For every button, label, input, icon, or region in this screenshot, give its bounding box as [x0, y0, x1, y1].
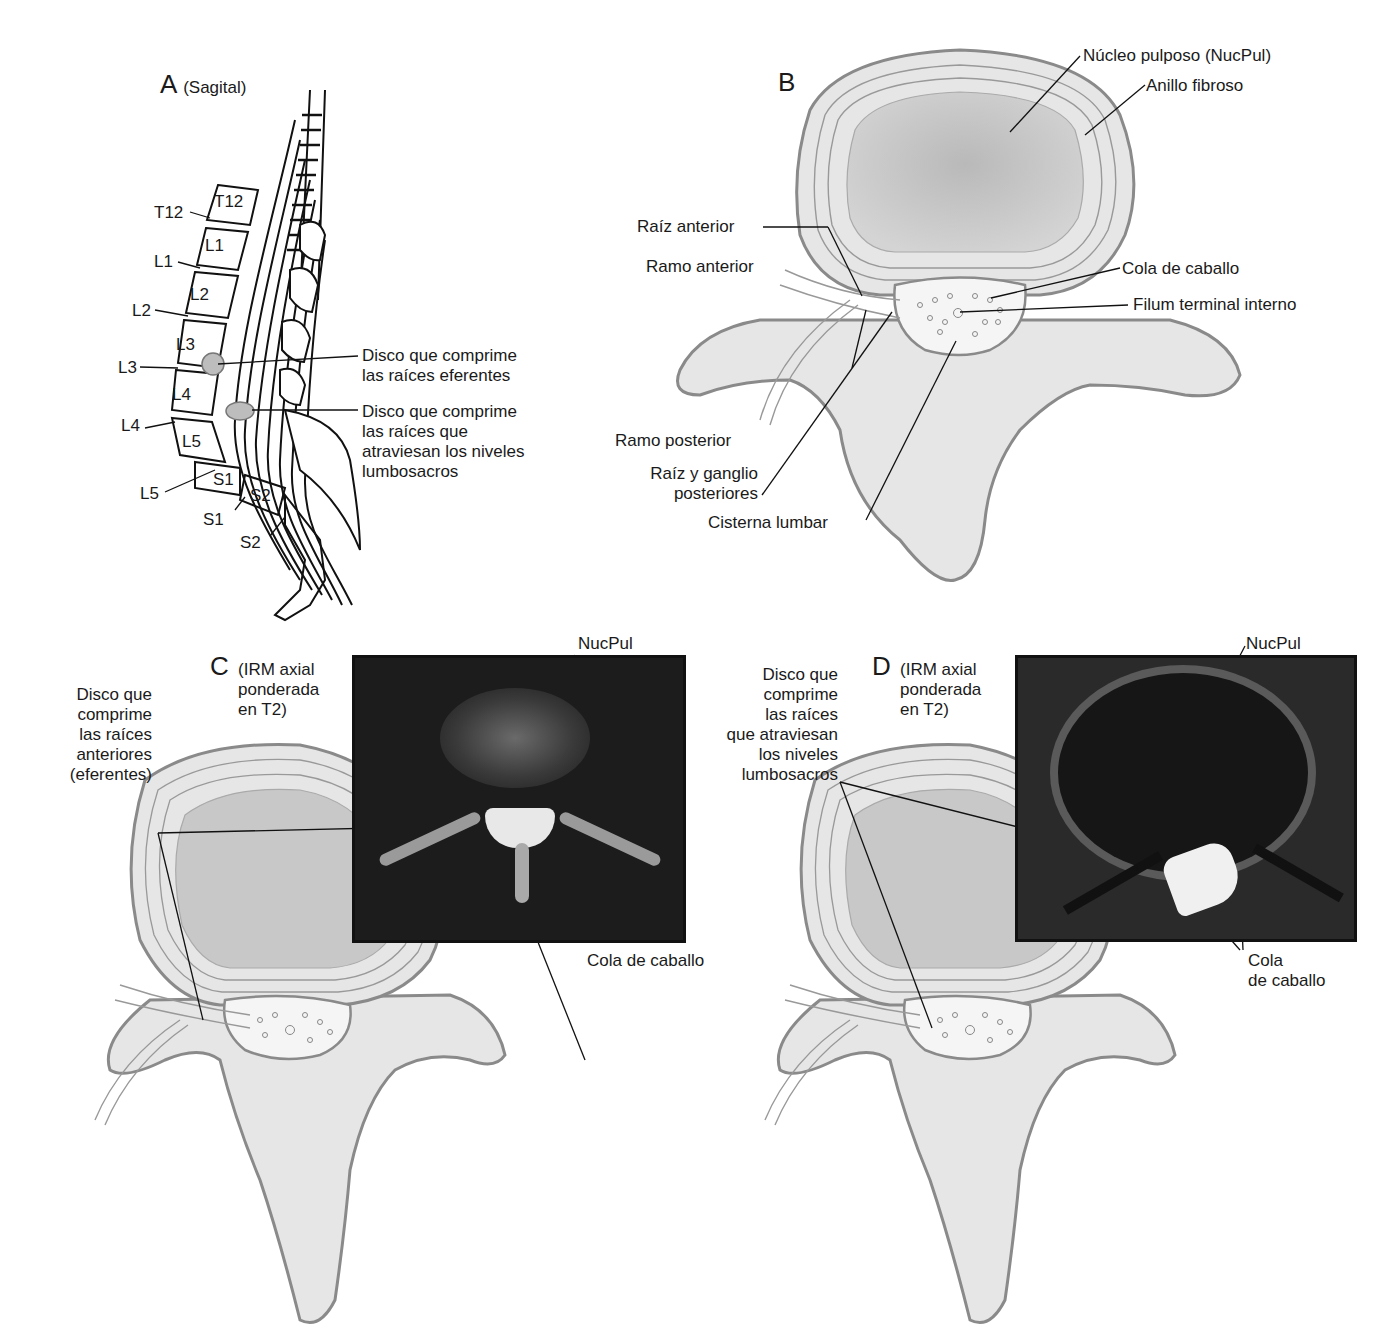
callout-anterior-ramus: Ramo anterior	[646, 257, 754, 277]
panel-d-letter: D	[872, 652, 891, 680]
vertebra-label-l5: L5	[182, 432, 201, 452]
callout-annulus-fibrosus: Anillo fibroso	[1146, 76, 1243, 96]
mri-spinous-c	[515, 843, 529, 903]
panel-a-sagittal-spine	[172, 90, 360, 620]
mri-lamina-left-d	[1063, 851, 1163, 915]
callout-posterior-ramus: Ramo posterior	[615, 431, 731, 451]
panel-c-letter: C	[210, 652, 229, 680]
callout-anterior-root: Raíz anterior	[637, 217, 734, 237]
panel-b-letter: B	[778, 68, 795, 96]
vertebra-label-t12: T12	[214, 192, 243, 212]
vertebra-label-s2: S2	[250, 486, 271, 506]
panel-a-title: A (Sagital)	[160, 70, 246, 102]
vertebra-label-l2: L2	[190, 285, 209, 305]
disc-label-l1: L1	[154, 252, 173, 272]
callout-cauda-equina-b: Cola de caballo	[1122, 259, 1239, 279]
callout-cauda-equina-d: Cola de caballo	[1248, 951, 1326, 991]
disc-label-l5: L5	[140, 484, 159, 504]
callout-filum-terminale: Filum terminal interno	[1133, 295, 1296, 315]
callout-lumbar-cistern: Cisterna lumbar	[708, 513, 828, 533]
callout-posterior-root-ganglion: Raíz y ganglio posteriores	[624, 464, 758, 504]
callout-nucpul-d: NucPul	[1246, 634, 1301, 654]
disc-label-s2: S2	[240, 533, 261, 553]
vertebra-label-s1: S1	[213, 470, 234, 490]
callout-nucleus-pulposus: Núcleo pulposo (NucPul)	[1083, 46, 1271, 66]
callout-disc-lumbosacral: Disco que comprime las raíces que atravi…	[362, 402, 525, 482]
callout-disc-anterior-roots: Disco que comprime las raíces anteriores…	[40, 685, 152, 785]
vertebra-label-l4: L4	[172, 385, 191, 405]
callout-disc-lumbosacral-roots: Disco que comprime las raíces que atravi…	[690, 665, 838, 785]
disc-label-l2: L2	[132, 301, 151, 321]
disc-label-t12: T12	[154, 203, 183, 223]
mri-nucleus-d	[1058, 673, 1308, 873]
mri-canal-c	[485, 808, 555, 848]
mri-lamina-right-d	[1252, 844, 1344, 903]
callout-cauda-equina-c: Cola de caballo	[587, 951, 704, 971]
mri-lamina-right-c	[558, 810, 663, 867]
disc-highlight-l4	[226, 402, 254, 420]
panel-b-axial-vertebra	[678, 50, 1241, 581]
panel-a-letter: A	[160, 69, 176, 99]
panel-d-subtitle: (IRM axial ponderada en T2)	[900, 660, 981, 720]
mri-nucleus-c	[440, 688, 590, 788]
mri-inset-c	[352, 655, 686, 943]
panel-c-subtitle: (IRM axial ponderada en T2)	[238, 660, 319, 720]
disc-label-s1: S1	[203, 510, 224, 530]
vertebra-label-l1: L1	[205, 236, 224, 256]
panel-a-subtitle: (Sagital)	[183, 78, 246, 97]
disc-label-l3: L3	[118, 358, 137, 378]
vertebra-label-l3: L3	[176, 335, 195, 355]
callout-nucpul-c: NucPul	[578, 634, 633, 654]
mri-lamina-left-c	[378, 810, 483, 867]
disc-label-l4: L4	[121, 416, 140, 436]
mri-inset-d	[1015, 655, 1357, 942]
callout-disc-efferent: Disco que comprime las raíces eferentes	[362, 346, 517, 386]
